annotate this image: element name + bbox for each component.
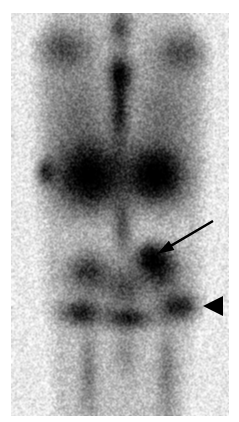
figure-margin-right xyxy=(229,0,239,422)
figure-margin-left xyxy=(0,0,11,422)
figure-margin-bottom xyxy=(0,416,239,422)
figure-margin-top xyxy=(0,0,239,13)
bone-scintigraphy-figure: Whole-body bone scintigram, anterior vie… xyxy=(0,0,239,422)
scintigraphy-canvas xyxy=(11,13,229,416)
scan-image-field xyxy=(11,13,229,416)
